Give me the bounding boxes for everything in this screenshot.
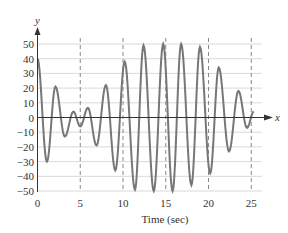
y-tick-label: −30	[17, 156, 35, 168]
y-tick-label: 0	[29, 112, 35, 124]
x-axis-arrow-icon	[264, 115, 273, 121]
y-tick-label: 50	[23, 38, 35, 50]
y-axis-arrow-icon	[35, 27, 41, 35]
y-tick-label: −20	[17, 141, 35, 153]
y-tick-label: −50	[17, 185, 35, 197]
y-axis-variable: y	[34, 14, 40, 26]
y-tick-label: 10	[23, 97, 35, 109]
y-tick-labels: 50403020100−10−20−30−40−50	[17, 38, 35, 197]
y-tick-label: −40	[17, 170, 35, 182]
oscillation-chart: y x 50403020100−10−20−30−40−50 051015202…	[0, 0, 288, 233]
x-tick-label: 25	[246, 197, 258, 209]
x-tick-label: 0	[35, 197, 41, 209]
x-tick-label: 10	[118, 197, 130, 209]
x-axis-title: Time (sec)	[142, 213, 189, 226]
x-tick-label: 5	[78, 197, 84, 209]
x-tick-label: 15	[160, 197, 172, 209]
x-tick-label: 20	[203, 197, 215, 209]
y-tick-label: 20	[23, 82, 35, 94]
y-tick-label: 40	[23, 53, 35, 65]
x-axis-variable: x	[274, 111, 280, 123]
x-tick-labels: 0510152025	[35, 197, 258, 209]
y-tick-label: −10	[17, 126, 35, 138]
y-tick-label: 30	[23, 67, 35, 79]
